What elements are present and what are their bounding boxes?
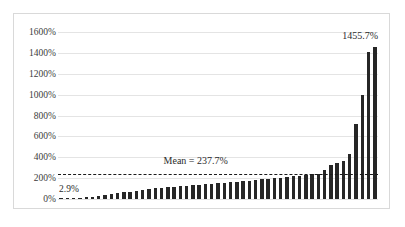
bar [342,161,345,199]
bar [141,190,144,199]
bar [91,197,94,199]
bar [279,178,282,200]
bar [66,198,69,199]
bar [298,176,301,199]
bar [241,181,244,199]
bar [235,182,238,199]
bar [248,181,251,199]
bar [128,192,131,200]
bar [273,178,276,199]
bar [223,183,226,199]
bar [85,197,88,199]
bar [179,186,182,199]
bar [78,198,81,199]
bar [122,192,125,199]
bar [172,187,175,199]
bar [335,163,338,199]
bar [154,188,157,199]
bar [204,184,207,199]
first-value-annotation-label: 2.9% [59,184,79,194]
bar [285,177,288,199]
chart-figure: 1600%1400%1200%1000%800%600%400%200%0% M… [0,0,405,227]
y-axis-tick-label: 400% [34,152,56,162]
bar [310,174,313,199]
max-value-annotation-label: 1455.7% [342,30,378,41]
bar [160,188,163,199]
chart-frame: 1600%1400%1200%1000%800%600%400%200%0% M… [13,13,390,209]
bar [260,179,263,199]
bar [229,182,232,199]
bar [116,193,119,199]
bar [103,195,106,199]
bar [191,185,194,199]
y-axis-tick-label: 1000% [29,90,56,100]
bar [317,174,320,199]
bar [72,198,75,199]
bar [216,183,219,199]
bar [166,187,169,199]
bar [110,194,113,199]
bar [329,165,332,199]
bar [266,179,269,199]
y-axis-tick-label: 1200% [29,69,56,79]
plot-area: Mean = 237.7% 2.9% 1455.7% [58,32,378,199]
y-axis-tick-label: 800% [34,111,56,121]
bar [292,176,295,199]
bar [147,189,150,199]
mean-annotation-label: Mean = 237.7% [164,155,228,166]
y-axis-tick-label: 1600% [29,27,56,37]
bar [197,185,200,199]
bar [361,95,364,199]
bar [354,124,357,199]
y-axis-tick-label: 1400% [29,48,56,58]
bar [254,180,257,199]
bar [59,198,62,199]
bar [135,191,138,199]
y-axis-tick-label: 0% [43,194,56,204]
bar [185,186,188,199]
bar [97,196,100,199]
mean-reference-line [58,174,378,175]
y-axis-tick-label: 600% [34,131,56,141]
bar [210,184,213,199]
y-axis: 1600%1400%1200%1000%800%600%400%200%0% [14,32,56,199]
bar [367,52,370,199]
bar [348,154,351,199]
bar [304,175,307,199]
y-axis-tick-label: 200% [34,173,56,183]
bar [373,47,376,199]
gridline [58,199,378,200]
